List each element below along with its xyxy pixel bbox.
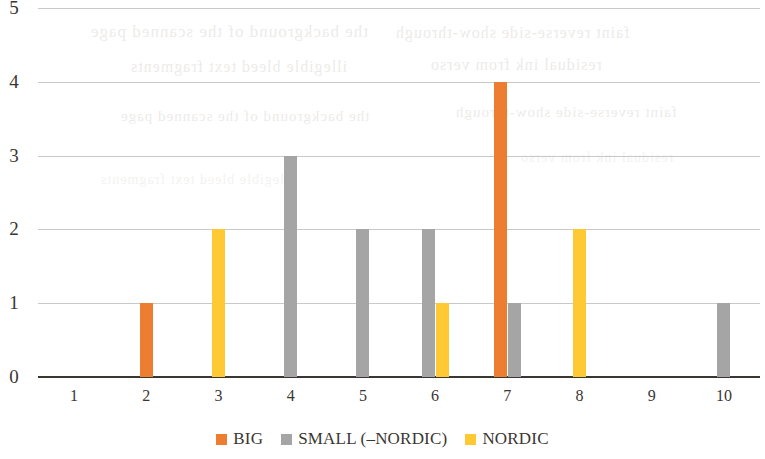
x-axis-tick-label: 6 <box>431 386 439 406</box>
gridline <box>38 8 760 9</box>
x-axis-tick-label: 1 <box>70 386 78 406</box>
legend-swatch-icon <box>465 434 476 445</box>
x-axis-tick-label: 3 <box>215 386 223 406</box>
bar[interactable] <box>140 303 153 377</box>
y-axis-tick-label: 2 <box>0 219 28 238</box>
bar[interactable] <box>212 229 225 377</box>
bar-chart: the background of the scanned page faint… <box>0 0 765 459</box>
x-axis-tick-label: 4 <box>287 386 295 406</box>
legend-swatch-icon <box>281 434 292 445</box>
bar[interactable] <box>284 156 297 377</box>
x-axis-tick-label: 7 <box>503 386 511 406</box>
legend-label: SMALL (–NORDIC) <box>298 430 447 448</box>
gridline <box>38 229 760 230</box>
bar[interactable] <box>494 82 507 377</box>
gridline <box>38 156 760 157</box>
y-axis-tick-label: 1 <box>0 293 28 312</box>
plot-area <box>38 8 760 377</box>
y-axis-tick-label: 0 <box>0 367 28 386</box>
x-axis-tick-label: 5 <box>359 386 367 406</box>
legend-label: BIG <box>233 430 263 448</box>
chart-legend: BIGSMALL (–NORDIC)NORDIC <box>0 430 765 448</box>
legend-label: NORDIC <box>482 430 548 448</box>
bar[interactable] <box>508 303 521 377</box>
y-axis-tick-label: 3 <box>0 146 28 165</box>
y-axis-tick-label: 4 <box>0 72 28 91</box>
legend-item[interactable]: SMALL (–NORDIC) <box>281 430 447 448</box>
gridline <box>38 82 760 83</box>
bar[interactable] <box>356 229 369 377</box>
bar[interactable] <box>436 303 449 377</box>
x-axis-tick-label: 10 <box>716 386 732 406</box>
x-axis-tick-label: 2 <box>142 386 150 406</box>
x-axis-tick-label: 8 <box>576 386 584 406</box>
legend-item[interactable]: BIG <box>216 430 263 448</box>
legend-item[interactable]: NORDIC <box>465 430 548 448</box>
x-axis-labels: 12345678910 <box>38 386 760 412</box>
y-axis-tick-label: 5 <box>0 0 28 17</box>
bar[interactable] <box>573 229 586 377</box>
legend-swatch-icon <box>216 434 227 445</box>
bar[interactable] <box>717 303 730 377</box>
x-axis-tick-label: 9 <box>648 386 656 406</box>
bar[interactable] <box>422 229 435 377</box>
